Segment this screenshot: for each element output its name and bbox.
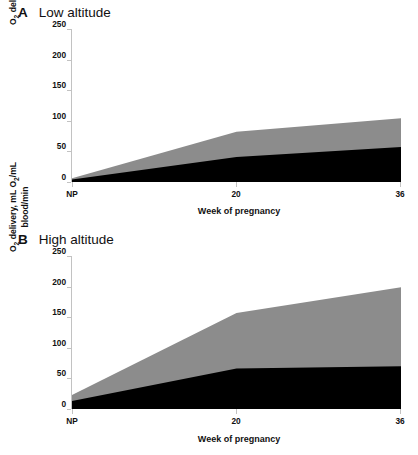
x-tick-label: 20 bbox=[231, 189, 240, 199]
y-axis-tick bbox=[67, 121, 71, 122]
figure-stacked-area-charts: A Low altitude O2 delivery, mL O2/mLbloo… bbox=[0, 0, 418, 455]
x-tick-label: NP bbox=[66, 416, 78, 426]
y-tick-label: 200 bbox=[52, 50, 66, 60]
panel-a-y-tick-labels: 0 50 100 150 200 250 bbox=[36, 24, 66, 184]
panel-a-svg bbox=[72, 29, 401, 182]
panel-b-data-area bbox=[72, 256, 401, 409]
y-tick-label: 50 bbox=[57, 141, 66, 151]
panel-b-y-tick-labels: 0 50 100 150 200 250 bbox=[36, 251, 66, 411]
y-tick-label: 150 bbox=[52, 307, 66, 317]
y-tick-label: 0 bbox=[61, 399, 66, 409]
panel-a-plot: O2 delivery, mL O2/mLblood/min 0 50 100 … bbox=[0, 0, 418, 227]
y-axis-tick bbox=[67, 317, 71, 318]
x-axis-tick bbox=[236, 182, 237, 187]
y-tick-label: 100 bbox=[52, 338, 66, 348]
panel-b-plot: O2 delivery, mL O2/mLblood/min 0 50 100 … bbox=[0, 227, 418, 454]
y-tick-label: 150 bbox=[52, 80, 66, 90]
y-axis-tick bbox=[67, 182, 71, 183]
panel-a-x-tick-labels: NP 20 36 bbox=[0, 189, 418, 203]
x-tick-label: NP bbox=[66, 189, 78, 199]
x-axis-tick bbox=[72, 409, 73, 414]
x-tick-label: 20 bbox=[231, 416, 240, 426]
y-axis-tick bbox=[67, 287, 71, 288]
x-axis-tick bbox=[72, 182, 73, 187]
y-axis-tick bbox=[67, 151, 71, 152]
y-axis-tick bbox=[67, 409, 71, 410]
panel-b-high-altitude: B High altitude O2 delivery, mL O2/mLblo… bbox=[0, 227, 418, 455]
panel-b-x-axis-title: Week of pregnancy bbox=[0, 434, 418, 444]
x-tick-label: 36 bbox=[395, 416, 404, 426]
y-tick-label: 50 bbox=[57, 368, 66, 378]
x-axis-tick bbox=[400, 409, 401, 414]
y-axis-tick bbox=[67, 29, 71, 30]
panel-a-x-axis-title: Week of pregnancy bbox=[0, 206, 418, 216]
x-tick-label: 36 bbox=[395, 189, 404, 199]
y-tick-label: 200 bbox=[52, 277, 66, 287]
x-axis-tick bbox=[400, 182, 401, 187]
y-axis-tick bbox=[67, 90, 71, 91]
y-axis-tick bbox=[67, 60, 71, 61]
panel-a-low-altitude: A Low altitude O2 delivery, mL O2/mLbloo… bbox=[0, 0, 418, 227]
y-axis-tick bbox=[67, 348, 71, 349]
panel-a-y-axis-title: O2 delivery, mL O2/mLblood/min bbox=[6, 0, 32, 56]
y-axis-tick bbox=[67, 256, 71, 257]
y-tick-label: 250 bbox=[52, 246, 66, 256]
y-tick-label: 250 bbox=[52, 19, 66, 29]
panel-a-data-area bbox=[72, 29, 401, 182]
y-axis-tick bbox=[67, 378, 71, 379]
panel-b-x-tick-labels: NP 20 36 bbox=[0, 416, 418, 430]
x-axis-tick bbox=[236, 409, 237, 414]
y-tick-label: 0 bbox=[61, 172, 66, 182]
y-tick-label: 100 bbox=[52, 111, 66, 121]
panel-b-svg bbox=[72, 256, 401, 409]
panel-b-y-axis-title: O2 delivery, mL O2/mLblood/min bbox=[6, 131, 32, 283]
